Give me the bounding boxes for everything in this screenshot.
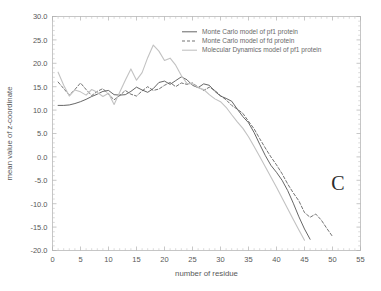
y-tick-label: -10.0 <box>30 200 47 209</box>
x-tick-label: 25 <box>188 255 196 264</box>
series-line-0 <box>58 77 310 239</box>
panel-label: C <box>331 172 344 194</box>
y-tick-label: 15.0 <box>33 83 48 92</box>
y-tick-label: -20.0 <box>30 246 47 255</box>
y-tick-label: 30.0 <box>33 12 48 21</box>
x-tick-label: 50 <box>328 255 336 264</box>
x-axis-tick-labels: 0510152025303540455055 <box>50 255 364 264</box>
chart-legend: Monte Carlo model of pf1 proteinMonte Ca… <box>182 28 322 54</box>
series-line-1 <box>58 82 332 236</box>
y-tick-label: 0.0 <box>37 153 47 162</box>
y-tick-label: 25.0 <box>33 36 48 45</box>
x-tick-label: 5 <box>78 255 82 264</box>
y-tick-label: 10.0 <box>33 106 48 115</box>
x-tick-label: 15 <box>132 255 140 264</box>
y-tick-label: -5.0 <box>35 176 48 185</box>
chart-figure: 0510152025303540455055 -20.0-15.0-10.0-5… <box>0 0 381 291</box>
y-tick-label: 20.0 <box>33 59 48 68</box>
y-axis-tick-labels: -20.0-15.0-10.0-5.00.05.010.015.020.025.… <box>30 12 47 255</box>
x-tick-label: 0 <box>50 255 54 264</box>
x-tick-label: 35 <box>244 255 252 264</box>
y-tick-label: 5.0 <box>37 129 47 138</box>
chart-plot-area: 0510152025303540455055 -20.0-15.0-10.0-5… <box>0 0 381 291</box>
x-axis-title: number of residue <box>175 269 238 278</box>
x-tick-label: 20 <box>160 255 168 264</box>
legend-label-0: Monte Carlo model of pf1 protein <box>202 28 298 36</box>
x-tick-label: 45 <box>300 255 308 264</box>
y-tick-label: -15.0 <box>30 223 47 232</box>
x-tick-label: 55 <box>356 255 364 264</box>
legend-label-1: Monte Carlo model of fd protein <box>202 37 295 45</box>
x-tick-label: 40 <box>272 255 280 264</box>
legend-label-2: Molecular Dynamics model of pf1 protein <box>202 46 322 54</box>
data-series-group <box>58 45 332 240</box>
x-tick-label: 10 <box>104 255 112 264</box>
y-axis-title: mean value of z-coordinate <box>5 86 14 180</box>
x-tick-label: 30 <box>216 255 224 264</box>
series-line-2 <box>58 45 304 240</box>
